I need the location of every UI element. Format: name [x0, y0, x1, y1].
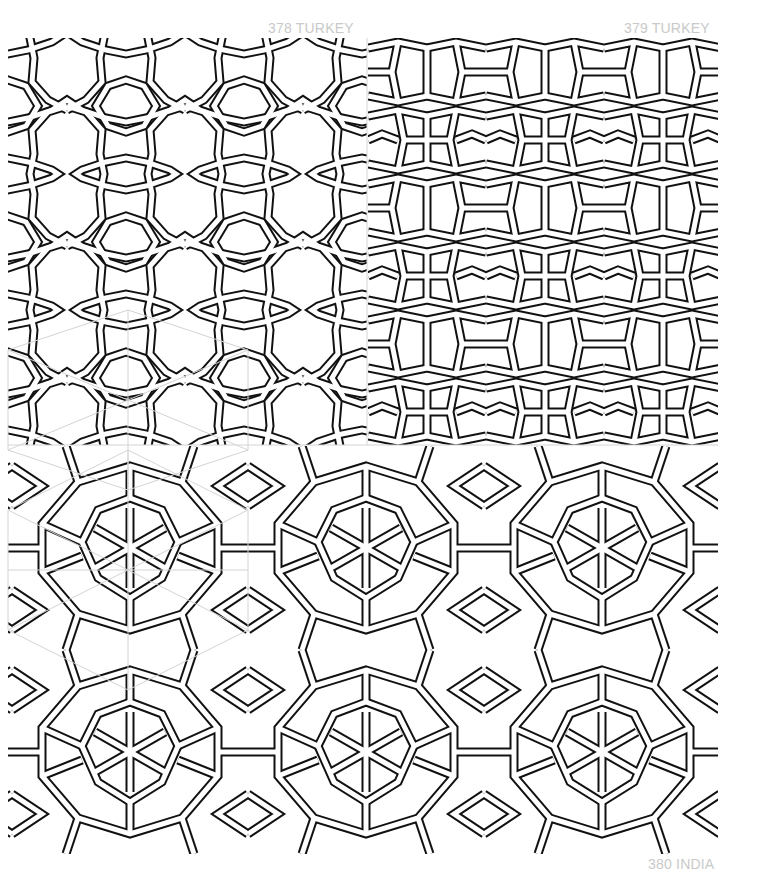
pattern-380-panel [8, 446, 718, 854]
pattern-379-panel [368, 38, 718, 445]
pattern-book-page: 378 TURKEY 379 TURKEY 380 INDIA [0, 0, 761, 886]
pattern-380-caption: 380 INDIA [648, 856, 714, 872]
pattern-379-caption: 379 TURKEY [624, 20, 710, 36]
pattern-378-caption: 378 TURKEY [268, 20, 354, 36]
pattern-artwork [0, 0, 761, 886]
pattern-378-panel [8, 38, 367, 445]
